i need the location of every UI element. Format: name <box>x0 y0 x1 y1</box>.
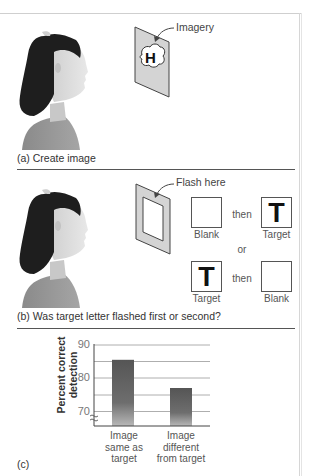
bar-chart <box>90 340 215 430</box>
target-label-1: Target <box>256 229 297 240</box>
blank-box-1 <box>191 197 222 228</box>
x-category-2-line-2: different <box>150 442 212 454</box>
target-letter: T <box>262 199 291 228</box>
y-tick-70: 70 <box>72 405 90 417</box>
bar-same-as-target <box>112 360 134 426</box>
blank-label-1: Blank <box>186 229 227 240</box>
flash-callout-label: Flash here <box>176 176 226 188</box>
x-category-1: Image same as target <box>100 430 148 465</box>
target-letter: T <box>192 263 221 292</box>
figure-frame-right <box>299 13 302 476</box>
target-label-2: Target <box>186 293 227 304</box>
target-box-2: T <box>191 261 222 292</box>
woman-profile-illustration <box>14 30 94 150</box>
y-tick-80: 80 <box>72 371 90 383</box>
x-category-2-line-3: from target <box>150 453 212 465</box>
panel-a-caption-text: Create image <box>33 152 96 164</box>
imagery-callout-label: Imagery <box>176 21 214 33</box>
x-category-1-line-2: same as <box>100 442 148 454</box>
blank-box-2 <box>261 261 292 292</box>
imagined-letter: H <box>145 49 156 66</box>
x-category-2-line-1: Image <box>150 430 212 442</box>
divider-b-c <box>17 328 295 329</box>
or-label: or <box>234 244 250 255</box>
y-axis-label-line-1: Percent correct <box>55 330 67 420</box>
woman-profile-illustration <box>14 188 94 308</box>
panel-c-caption: (c) <box>17 458 29 470</box>
figure-frame-top <box>0 13 301 14</box>
then-label-1: then <box>230 209 254 220</box>
panel-a-letter: (a) <box>17 152 30 164</box>
x-category-2: Image different from target <box>150 430 212 465</box>
panel-b-caption-text: Was target letter flashed first or secon… <box>33 310 221 322</box>
target-box-1: T <box>261 197 292 228</box>
bar-different-from-target <box>170 388 192 426</box>
x-category-1-line-3: target <box>100 453 148 465</box>
panel-a-caption: (a) Create image <box>17 152 96 164</box>
then-label-2: then <box>230 273 254 284</box>
panel-b-letter: (b) <box>17 310 30 322</box>
panel-b-caption: (b) Was target letter flashed first or s… <box>17 310 221 322</box>
y-tick-90: 90 <box>72 338 90 350</box>
blank-label-2: Blank <box>256 293 297 304</box>
panel-c-letter: (c) <box>17 458 29 470</box>
divider-a-b <box>17 169 295 170</box>
x-category-1-line-1: Image <box>100 430 148 442</box>
